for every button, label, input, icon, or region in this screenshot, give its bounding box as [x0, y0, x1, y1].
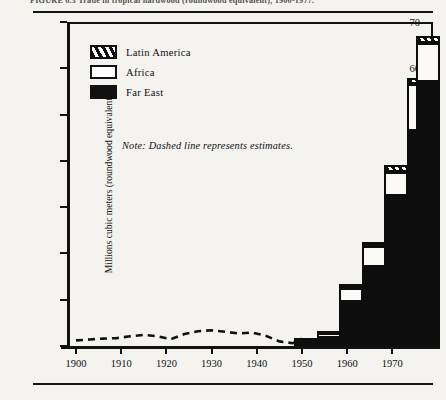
y-tick — [60, 67, 67, 69]
x-tick — [256, 346, 258, 354]
x-tick — [120, 346, 122, 354]
figure-root: FIGURE 6.3 Trade in tropical hardwood (r… — [0, 0, 446, 400]
x-tick — [346, 346, 348, 354]
y-tick — [60, 160, 67, 162]
x-tick-label: 1920 — [156, 358, 177, 369]
x-tick — [165, 346, 167, 354]
chart-note: Note: Dashed line represents estimates. — [122, 140, 293, 151]
y-tick — [60, 114, 67, 116]
legend-label: Latin America — [126, 47, 191, 58]
legend-swatch-white-icon — [90, 65, 117, 79]
legend: Latin America Africa Far East — [90, 45, 191, 105]
legend-item-latin-america: Latin America — [90, 45, 191, 59]
x-tick-label: 1900 — [66, 358, 87, 369]
x-tick-label: 1960 — [337, 358, 358, 369]
legend-swatch-black-icon — [90, 85, 117, 99]
x-tick — [391, 346, 393, 354]
x-tick-label: 1910 — [111, 358, 132, 369]
legend-item-far-east: Far East — [90, 85, 191, 99]
y-tick — [60, 252, 67, 254]
plot-area: Millions cubic meters (roundwood equival… — [67, 22, 433, 346]
x-tick-label: 1940 — [246, 358, 267, 369]
y-tick — [60, 345, 67, 347]
x-tick-label: 1930 — [201, 358, 222, 369]
x-tick — [301, 346, 303, 354]
x-tick-label: 1950 — [291, 358, 312, 369]
legend-label: Far East — [126, 87, 163, 98]
top-rule — [33, 11, 433, 13]
figure-caption: FIGURE 6.3 Trade in tropical hardwood (r… — [30, 0, 420, 8]
x-tick-label: 1970 — [382, 358, 403, 369]
legend-swatch-hatched-icon — [90, 45, 117, 59]
bottom-rule — [33, 383, 433, 385]
x-axis-line — [61, 346, 440, 349]
legend-label: Africa — [126, 67, 155, 78]
y-tick — [60, 206, 67, 208]
y-tick — [60, 299, 67, 301]
legend-item-africa: Africa — [90, 65, 191, 79]
x-tick — [211, 346, 213, 354]
y-tick — [60, 21, 67, 23]
x-tick — [75, 346, 77, 354]
